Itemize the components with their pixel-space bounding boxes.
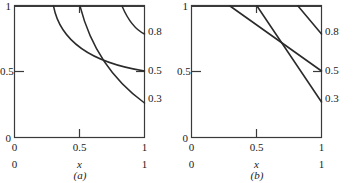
panel-b-contour-0.3 bbox=[298, 6, 322, 34]
panel-a-ytick-label-0.5: 0.5 bbox=[0, 66, 13, 77]
panel-b-contour-label-0.5: 0.5 bbox=[325, 65, 339, 76]
panel-a-contour-label-0.8: 0.8 bbox=[148, 26, 162, 37]
panel-b-xaxis-end-label-0: 0 bbox=[186, 159, 197, 170]
panel-a: 1 0.5 0 0.8 0.5 0.3 0 0.5 1 0 x 1 (a) bbox=[0, 0, 176, 183]
panel-a-contour-label-0.3: 0.3 bbox=[148, 93, 162, 104]
panel-b-ytick-label-1: 1 bbox=[177, 1, 188, 12]
panel-a-xaxis-end-label-0: 0 bbox=[9, 159, 20, 170]
panel-b-contour-0.5 bbox=[257, 6, 322, 102]
panel-a-ytick-label-1: 1 bbox=[0, 1, 11, 12]
panel-b-contour-label-0.8: 0.8 bbox=[325, 26, 339, 37]
panel-b-contour-label-0.3: 0.3 bbox=[325, 93, 339, 104]
panel-a-xtick-label-1: 1 bbox=[139, 142, 150, 153]
panel-b-contour-0.8 bbox=[230, 6, 322, 71]
panel-b: 1 0.5 0 0.8 0.5 0.3 0 0.5 1 0 x 1 (b) bbox=[177, 0, 353, 183]
panel-a-xtick-label-0: 0 bbox=[9, 142, 20, 153]
panel-b-xtick-label-0.5: 0.5 bbox=[246, 142, 267, 153]
panel-a-contour-label-0.5: 0.5 bbox=[148, 65, 162, 76]
panel-a-contour-0.3 bbox=[122, 6, 145, 34]
panel-a-caption: (a) bbox=[60, 170, 100, 181]
panel-b-ytick-label-0.5: 0.5 bbox=[177, 66, 190, 77]
panel-a-contour-0.8 bbox=[54, 6, 145, 71]
panel-a-axes-frame bbox=[15, 6, 145, 138]
panel-b-xaxis-end-label-1: 1 bbox=[316, 159, 327, 170]
panel-a-xaxis-end-label-1: 1 bbox=[139, 159, 150, 170]
panel-b-xtick-label-0: 0 bbox=[186, 142, 197, 153]
panel-b-caption: (b) bbox=[237, 170, 277, 181]
panel-b-xtick-label-1: 1 bbox=[316, 142, 327, 153]
contour-figure: 1 0.5 0 0.8 0.5 0.3 0 0.5 1 0 x 1 (a) bbox=[0, 0, 353, 183]
panel-a-xtick-label-0.5: 0.5 bbox=[69, 142, 90, 153]
